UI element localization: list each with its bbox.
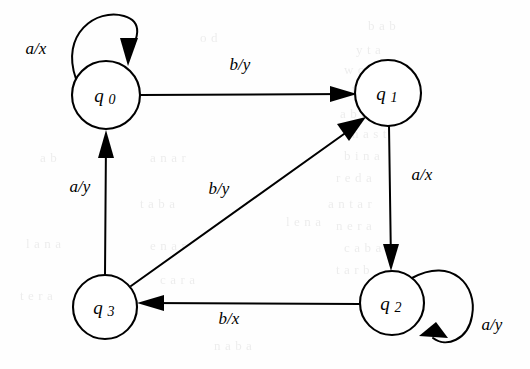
transition-q2-to-q2-label: a/y: [482, 315, 503, 334]
transition-q0-to-q0-arrowhead: [120, 38, 138, 66]
state-q2-label: q: [380, 293, 390, 314]
transition-q1-to-q2-label: a/x: [412, 165, 433, 184]
state-q1-circle: [355, 60, 421, 126]
transition-q2-to-q2-arrowhead: [419, 322, 448, 338]
transition-q0-to-q1-label: b/y: [230, 55, 251, 74]
transition-q3-to-q1-arrowhead: [337, 117, 366, 141]
transition-q1-to-q2[interactable]: a/x: [383, 126, 433, 271]
transition-q0-to-q1[interactable]: b/y: [140, 55, 357, 102]
transition-q2-to-q2[interactable]: a/y: [412, 270, 503, 342]
state-node-q1[interactable]: q 1: [355, 60, 421, 126]
transition-q0-to-q1-arrowhead: [330, 86, 357, 102]
state-q2-circle: [360, 271, 424, 335]
state-q1-label: q: [376, 83, 386, 104]
state-node-q3[interactable]: q 3: [73, 275, 137, 339]
state-node-q2[interactable]: q 2: [360, 271, 424, 335]
state-q1-subscript: 1: [391, 90, 398, 105]
transition-q2-to-q3-label: b/x: [219, 309, 240, 328]
transition-q3-to-q1-label: b/y: [209, 179, 230, 198]
transition-q3-to-q0-arrowhead: [98, 130, 114, 158]
state-q0-circle: [72, 61, 140, 129]
state-q3-circle: [73, 275, 137, 339]
state-q0-subscript: 0: [109, 92, 116, 107]
transition-q0-to-q0-label: a/x: [26, 39, 47, 58]
state-q3-subscript: 3: [107, 304, 115, 319]
transition-q2-to-q3-arrowhead: [137, 295, 164, 311]
transition-q3-to-q0-label: a/y: [70, 177, 91, 196]
transition-q1-to-q2-path: [389, 126, 391, 263]
state-q3-label: q: [93, 297, 103, 318]
transition-q0-to-q1-path: [140, 94, 348, 95]
transition-q3-to-q1-path: [131, 124, 358, 286]
state-q0-label: q: [94, 85, 104, 106]
transition-q3-to-q1[interactable]: b/y: [131, 117, 366, 286]
transition-q3-to-q0-path: [105, 140, 106, 275]
transition-q1-to-q2-arrowhead: [383, 244, 399, 271]
state-diagram-canvas: b a by t aw c nb a ba b c an a s tb i n …: [0, 0, 530, 369]
state-q2-subscript: 2: [395, 300, 402, 315]
state-diagram-svg: a/x b/y a/x b/x a/y: [0, 0, 530, 369]
transition-q2-to-q3[interactable]: b/x: [137, 295, 360, 328]
state-node-q0[interactable]: q 0: [72, 61, 140, 129]
transition-q3-to-q0[interactable]: a/y: [70, 130, 114, 275]
transition-q2-to-q3-path: [146, 303, 360, 304]
